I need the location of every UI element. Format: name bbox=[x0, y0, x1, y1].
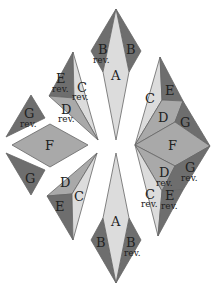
label-b: B bbox=[126, 42, 136, 57]
label-g: G bbox=[25, 171, 35, 186]
label-a: A bbox=[110, 214, 121, 229]
label-rev: rev. bbox=[161, 201, 178, 211]
label-a: A bbox=[110, 68, 121, 83]
label-rev: rev. bbox=[93, 55, 110, 65]
label-c: C bbox=[74, 189, 84, 204]
label-f: F bbox=[45, 138, 54, 153]
label-f: F bbox=[168, 138, 177, 153]
label-b: B bbox=[96, 235, 106, 250]
label-e: E bbox=[55, 199, 65, 214]
label-rev: rev. bbox=[124, 248, 141, 258]
bottom-spike: A B B rev. bbox=[91, 153, 141, 283]
label-rev: rev. bbox=[141, 199, 158, 209]
label-g: G bbox=[180, 115, 190, 130]
upper-left-wedge: E rev. C rev. D rev. bbox=[49, 52, 98, 140]
right-assembly: C E D G F D rev. G rev. C rev. E rev. bbox=[135, 57, 210, 236]
label-rev: rev. bbox=[20, 119, 37, 129]
label-rev: rev. bbox=[72, 92, 89, 102]
label-rev: rev. bbox=[58, 114, 75, 124]
top-spike: B rev. B A bbox=[91, 9, 141, 140]
label-e: E bbox=[165, 83, 175, 98]
label-rev: rev. bbox=[181, 173, 198, 183]
label-d: D bbox=[158, 110, 168, 125]
label-rev: rev. bbox=[156, 178, 173, 188]
net-diagram: B rev. B A E rev. C rev. D rev. G rev. F… bbox=[0, 0, 217, 289]
label-rev: rev. bbox=[52, 84, 69, 94]
label-d: D bbox=[60, 175, 70, 190]
label-c: C bbox=[145, 91, 155, 106]
lower-left-wedge: D E C bbox=[47, 153, 97, 240]
